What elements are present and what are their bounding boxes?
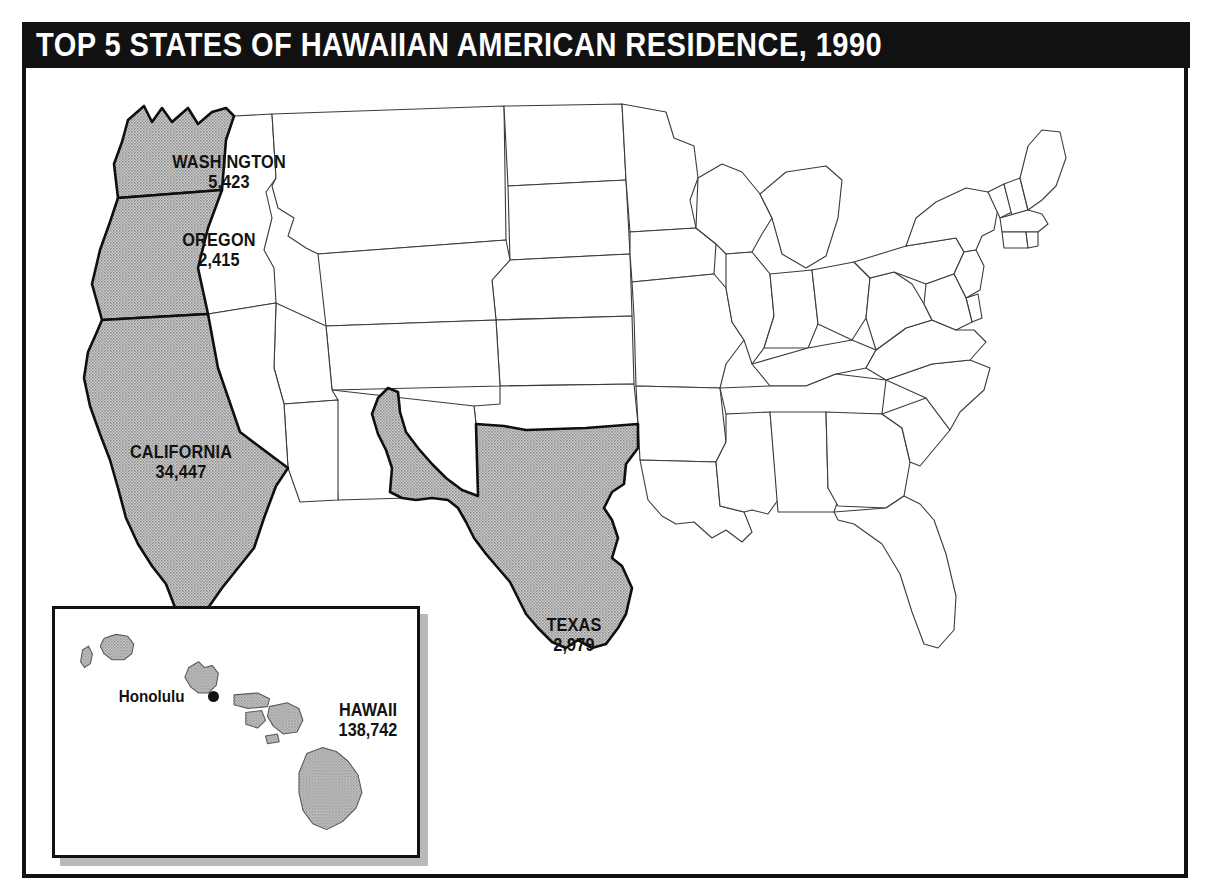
state-ohio (812, 262, 870, 340)
state-kansas (496, 316, 634, 386)
state-georgia (826, 412, 910, 508)
state-florida (834, 496, 956, 648)
label-hawaii: HAWAII 138,742 (317, 701, 419, 740)
label-washington: WASHINGTON 5,423 (159, 153, 299, 192)
label-oregon: OREGON 2,415 (149, 231, 289, 270)
label-texas-value: 2,979 (509, 636, 639, 656)
state-wyoming (318, 240, 510, 326)
hawaii-inset-box: Honolulu HAWAII 138,742 (52, 606, 420, 858)
state-michigan (760, 166, 842, 268)
island-hawaii-big (299, 748, 362, 830)
label-oregon-value: 2,415 (149, 251, 289, 271)
state-nebraska (492, 254, 632, 320)
label-hawaii-name: HAWAII (317, 701, 419, 721)
page-title: TOP 5 STATES OF HAWAIIAN AMERICAN RESIDE… (36, 28, 882, 61)
state-rhode-island (1026, 232, 1038, 248)
label-california-value: 34,447 (107, 463, 256, 483)
state-arkansas (636, 386, 726, 462)
state-north-dakota (504, 104, 626, 186)
map-figure: TOP 5 STATES OF HAWAIIAN AMERICAN RESIDE… (0, 0, 1210, 895)
state-south-dakota (508, 180, 630, 260)
island-kauai (100, 634, 133, 659)
label-honolulu: Honolulu (119, 688, 185, 706)
hawaii-inset: Honolulu HAWAII 138,742 (52, 606, 420, 858)
state-connecticut (1002, 232, 1028, 248)
island-oahu (185, 662, 218, 693)
states-plain (198, 104, 1066, 648)
label-california-name: CALIFORNIA (107, 443, 256, 463)
label-texas-name: TEXAS (509, 616, 639, 636)
state-maine (1020, 130, 1066, 210)
state-mississippi (716, 412, 778, 514)
island-lanai (246, 711, 266, 729)
state-iowa (630, 228, 716, 282)
label-california: CALIFORNIA 34,447 (107, 443, 256, 482)
state-colorado (326, 320, 500, 390)
label-washington-value: 5,423 (159, 173, 299, 193)
island-niihau (81, 646, 93, 667)
label-washington-name: WASHINGTON (159, 153, 299, 173)
island-molokai (234, 693, 269, 709)
state-minnesota (622, 104, 698, 232)
state-montana (272, 106, 506, 254)
state-oklahoma (474, 384, 638, 430)
label-hawaii-value: 138,742 (317, 721, 419, 741)
island-maui (267, 703, 302, 734)
label-texas: TEXAS 2,979 (509, 616, 639, 655)
map-frame: WASHINGTON 5,423 OREGON 2,415 CALIFORNIA… (22, 68, 1188, 878)
title-bar: TOP 5 STATES OF HAWAIIAN AMERICAN RESIDE… (22, 22, 1190, 68)
state-arizona (284, 400, 338, 502)
label-oregon-name: OREGON (149, 231, 289, 251)
island-kahoolawe (266, 734, 280, 744)
honolulu-city-marker-dot (208, 691, 219, 702)
